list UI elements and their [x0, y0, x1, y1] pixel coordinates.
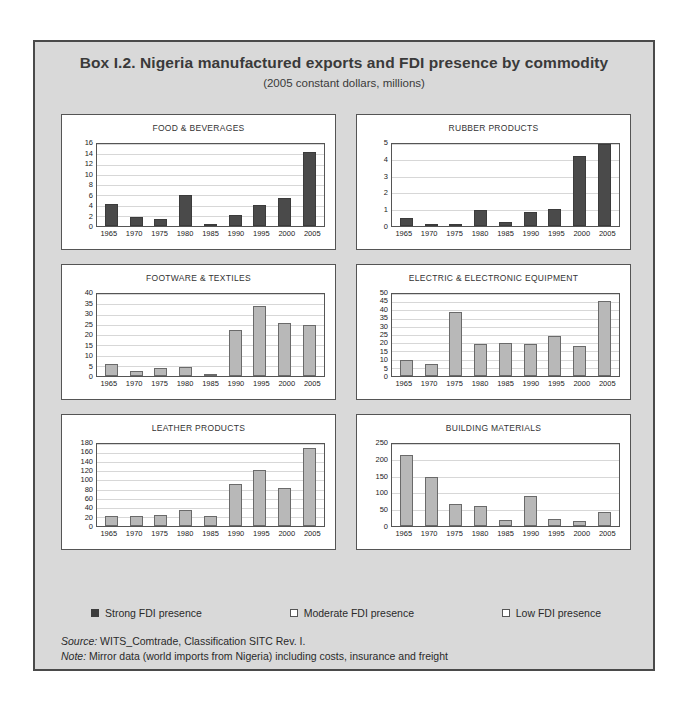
box-subtitle: (2005 constant dollars, millions) [35, 77, 653, 89]
bar [598, 301, 611, 376]
y-axis-tick: 250 [375, 439, 388, 447]
bar [154, 368, 167, 376]
bar-series [392, 144, 619, 226]
bar [303, 152, 316, 226]
x-axis: 196519701975198019851990199520002005 [391, 527, 620, 545]
legend-label: Low FDI presence [516, 607, 601, 619]
bar [474, 344, 487, 376]
bar-series [97, 144, 324, 226]
x-axis: 196519701975198019851990199520002005 [391, 227, 620, 245]
y-axis-tick: 10 [85, 171, 93, 179]
y-axis-tick: 16 [85, 139, 93, 147]
bar [130, 217, 143, 226]
x-axis-tick: 1965 [391, 227, 416, 238]
x-axis-tick: 1975 [442, 227, 467, 238]
x-axis-tick: 1975 [147, 527, 172, 538]
bar-series [392, 444, 619, 526]
x-axis-tick: 1980 [172, 377, 197, 388]
source-text: WITS_Comtrade, Classification SITC Rev. … [97, 635, 305, 647]
bar [548, 336, 561, 376]
bar [598, 512, 611, 526]
x-axis-tick: 1985 [493, 527, 518, 538]
bar-series [97, 294, 324, 376]
bar [499, 222, 512, 226]
bar [154, 515, 167, 526]
y-axis-tick: 0 [384, 223, 388, 231]
y-axis-tick: 5 [89, 363, 93, 371]
x-axis-tick: 1985 [198, 377, 223, 388]
x-axis-tick: 1985 [493, 227, 518, 238]
x-axis-tick: 1965 [96, 527, 121, 538]
x-axis-tick: 1990 [518, 227, 543, 238]
y-axis-tick: 1 [384, 206, 388, 214]
chart-panel: BUILDING MATERIALS0501001502002501965197… [356, 414, 631, 550]
x-axis-tick: 1970 [121, 227, 146, 238]
plot-area: 0510152025303540455019651970197519801985… [357, 291, 626, 397]
y-axis-tick: 15 [85, 342, 93, 350]
x-axis: 196519701975198019851990199520002005 [96, 227, 325, 245]
bar [499, 343, 512, 376]
bar [524, 344, 537, 376]
note-text: Mirror data (world imports from Nigeria)… [86, 650, 448, 662]
bar [204, 224, 217, 226]
y-axis-tick: 100 [80, 477, 93, 485]
x-axis-tick: 1985 [198, 527, 223, 538]
chart-title: LEATHER PRODUCTS [62, 415, 335, 433]
plot-box [391, 143, 620, 227]
y-axis-tick: 14 [85, 150, 93, 158]
y-axis: 012345 [357, 143, 389, 227]
x-axis-tick: 1975 [442, 377, 467, 388]
source-line: Source: WITS_Comtrade, Classification SI… [61, 634, 641, 649]
bar [573, 346, 586, 376]
plot-area: 0246810121416196519701975198019851990199… [62, 141, 331, 247]
x-axis-tick: 1990 [518, 377, 543, 388]
y-axis-tick: 0 [384, 373, 388, 381]
y-axis-tick: 10 [85, 352, 93, 360]
y-axis-tick: 6 [89, 192, 93, 200]
x-axis-tick: 2005 [595, 227, 620, 238]
chart-grid: FOOD & BEVERAGES024681012141619651970197… [61, 114, 631, 550]
x-axis-tick: 2000 [274, 527, 299, 538]
bar [229, 484, 242, 526]
x-axis-tick: 1995 [249, 377, 274, 388]
x-axis-tick: 1995 [249, 527, 274, 538]
bar [278, 323, 291, 376]
bar [573, 156, 586, 226]
note-label: Note: [61, 650, 86, 662]
legend-item: Moderate FDI presence [290, 607, 414, 619]
chart-panel: RUBBER PRODUCTS0123451965197019751980198… [356, 114, 631, 250]
bar [548, 209, 561, 226]
y-axis-tick: 30 [85, 310, 93, 318]
y-axis-tick: 60 [85, 495, 93, 503]
bar [449, 504, 462, 526]
x-axis-tick: 1980 [467, 527, 492, 538]
box-title: Box I.2. Nigeria manufactured exports an… [35, 54, 653, 72]
chart-title: RUBBER PRODUCTS [357, 115, 630, 133]
plot-box [96, 443, 325, 527]
bar [499, 520, 512, 526]
plot-area: 0510152025303540196519701975198019851990… [62, 291, 331, 397]
x-axis-tick: 1985 [493, 377, 518, 388]
y-axis-tick: 0 [89, 523, 93, 531]
x-axis-tick: 2000 [569, 227, 594, 238]
x-axis-tick: 1990 [223, 527, 248, 538]
x-axis: 196519701975198019851990199520002005 [96, 377, 325, 395]
bar [449, 224, 462, 226]
chart-title: ELECTRIC & ELECTRONIC EQUIPMENT [357, 265, 630, 283]
bar [179, 367, 192, 376]
bar-series [392, 294, 619, 376]
bar [204, 516, 217, 526]
y-axis-tick: 35 [380, 314, 388, 322]
x-axis-tick: 1990 [518, 527, 543, 538]
source-label: Source: [61, 635, 97, 647]
plot-area: 0501001502002501965197019751980198519901… [357, 441, 626, 547]
y-axis-tick: 2 [384, 190, 388, 198]
bar [400, 455, 413, 527]
x-axis-tick: 2000 [569, 377, 594, 388]
x-axis-tick: 1965 [96, 227, 121, 238]
note-line: Note: Mirror data (world imports from Ni… [61, 649, 641, 664]
plot-box [391, 443, 620, 527]
x-axis-tick: 1990 [223, 377, 248, 388]
x-axis-tick: 1965 [391, 527, 416, 538]
y-axis-tick: 25 [380, 331, 388, 339]
